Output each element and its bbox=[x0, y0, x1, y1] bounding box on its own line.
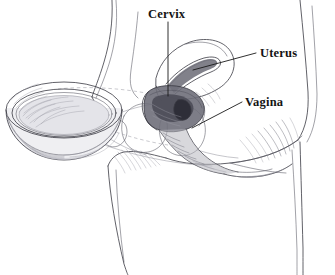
label-uterus: Uterus bbox=[260, 46, 297, 60]
label-vagina: Vagina bbox=[245, 95, 284, 109]
illustration-canvas: Cervix Uterus Vagina bbox=[0, 0, 335, 275]
illustration-figure: Cervix Uterus Vagina bbox=[0, 0, 335, 275]
diaphragm-device bbox=[6, 82, 122, 160]
cervix-body bbox=[142, 86, 205, 132]
label-cervix: Cervix bbox=[148, 7, 186, 21]
gluteal-shading bbox=[240, 118, 300, 163]
